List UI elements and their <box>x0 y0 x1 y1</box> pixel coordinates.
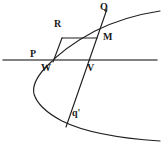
point-label-M: M <box>103 32 112 42</box>
point-label-q-prime: q' <box>72 108 80 118</box>
parabola-curve <box>33 11 160 141</box>
segment-R-W <box>53 38 62 62</box>
point-label-W: W <box>41 63 51 73</box>
point-label-P: P <box>30 49 36 59</box>
point-label-V: V <box>87 63 94 73</box>
point-label-R: R <box>54 19 61 29</box>
figure-canvas <box>0 0 164 150</box>
geometry-figure: P R Q M W V q' <box>0 0 164 150</box>
point-label-Q: Q <box>100 2 108 12</box>
